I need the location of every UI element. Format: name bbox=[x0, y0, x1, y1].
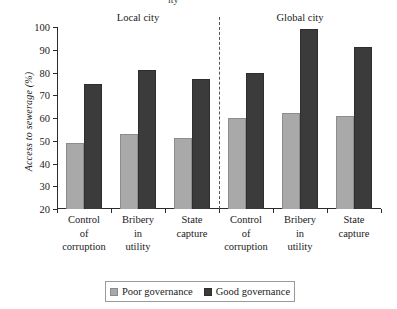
bar-poor-1 bbox=[120, 134, 138, 209]
bar-poor-0 bbox=[66, 143, 84, 209]
panel-divider bbox=[219, 17, 220, 209]
x-category-line: Bribery bbox=[122, 213, 154, 227]
clipped-top-text-fragment: ity bbox=[168, 0, 179, 5]
bar-poor-2 bbox=[174, 138, 192, 209]
legend-item-poor-governance: Poor governance bbox=[110, 286, 193, 297]
y-tick-mark bbox=[53, 73, 57, 74]
bar-good-2 bbox=[192, 79, 210, 209]
y-tick-label: 60 bbox=[40, 113, 51, 124]
x-tick-mark bbox=[273, 209, 274, 213]
y-tick-mark bbox=[53, 95, 57, 96]
y-tick-label: 50 bbox=[40, 135, 51, 146]
x-category-line: Control bbox=[62, 213, 106, 227]
x-category-line: capture bbox=[177, 227, 208, 241]
bar-good-3 bbox=[246, 73, 264, 210]
panel-title-local-city: Local city bbox=[117, 12, 159, 23]
bar-good-1 bbox=[138, 70, 156, 209]
chart-legend: Poor governance Good governance bbox=[105, 281, 295, 302]
x-tick-mark bbox=[219, 209, 220, 213]
bar-good-5 bbox=[354, 47, 372, 209]
x-category-line: corruption bbox=[224, 240, 268, 254]
y-tick-label: 70 bbox=[40, 90, 51, 101]
panel-title-global-city: Global city bbox=[277, 12, 324, 23]
y-tick-mark bbox=[53, 141, 57, 142]
bar-good-4 bbox=[300, 29, 318, 209]
y-tick-mark bbox=[53, 118, 57, 119]
y-tick-label: 80 bbox=[40, 67, 51, 78]
y-tick-label: 30 bbox=[40, 181, 51, 192]
x-tick-mark bbox=[381, 209, 382, 213]
y-tick-mark bbox=[53, 27, 57, 28]
x-category-line: State bbox=[339, 213, 370, 227]
x-category-line: State bbox=[177, 213, 208, 227]
x-category-line: corruption bbox=[62, 240, 106, 254]
y-tick-mark bbox=[53, 186, 57, 187]
y-tick-label: 20 bbox=[40, 204, 51, 215]
x-category-line: in bbox=[122, 227, 154, 241]
y-tick-mark bbox=[53, 164, 57, 165]
legend-swatch-icon-poor bbox=[110, 288, 118, 296]
legend-swatch-icon-good bbox=[204, 288, 212, 296]
bar-good-0 bbox=[84, 84, 102, 209]
x-category-line: capture bbox=[339, 227, 370, 241]
bar-poor-5 bbox=[336, 116, 354, 209]
y-tick-label: 90 bbox=[40, 44, 51, 55]
x-category-line: of bbox=[62, 227, 106, 241]
legend-label-poor: Poor governance bbox=[122, 286, 193, 297]
x-category-label-4: Briberyinutility bbox=[284, 213, 316, 254]
y-tick-mark bbox=[53, 50, 57, 51]
x-category-line: Bribery bbox=[284, 213, 316, 227]
bar-poor-4 bbox=[282, 113, 300, 209]
y-tick-label: 100 bbox=[34, 22, 50, 33]
x-category-line: Control bbox=[224, 213, 268, 227]
x-category-label-5: Statecapture bbox=[339, 213, 370, 240]
x-tick-mark bbox=[57, 209, 58, 213]
legend-label-good: Good governance bbox=[216, 286, 290, 297]
y-tick-label: 40 bbox=[40, 158, 51, 169]
x-category-line: in bbox=[284, 227, 316, 241]
y-axis-line bbox=[57, 27, 58, 209]
x-tick-mark bbox=[165, 209, 166, 213]
x-category-line: utility bbox=[284, 240, 316, 254]
x-category-label-0: Controlofcorruption bbox=[62, 213, 106, 254]
legend-item-good-governance: Good governance bbox=[204, 286, 290, 297]
x-category-line: of bbox=[224, 227, 268, 241]
chart-figure: ity Access to sewerage (%) 2030405060708… bbox=[0, 0, 397, 309]
x-category-line: utility bbox=[122, 240, 154, 254]
x-tick-mark bbox=[327, 209, 328, 213]
x-category-label-1: Briberyinutility bbox=[122, 213, 154, 254]
bar-poor-3 bbox=[228, 118, 246, 209]
x-category-label-2: Statecapture bbox=[177, 213, 208, 240]
x-category-label-3: Controlofcorruption bbox=[224, 213, 268, 254]
x-tick-mark bbox=[111, 209, 112, 213]
plot-area: 2030405060708090100 bbox=[57, 27, 381, 209]
y-axis-label: Access to sewerage (%) bbox=[23, 32, 34, 212]
